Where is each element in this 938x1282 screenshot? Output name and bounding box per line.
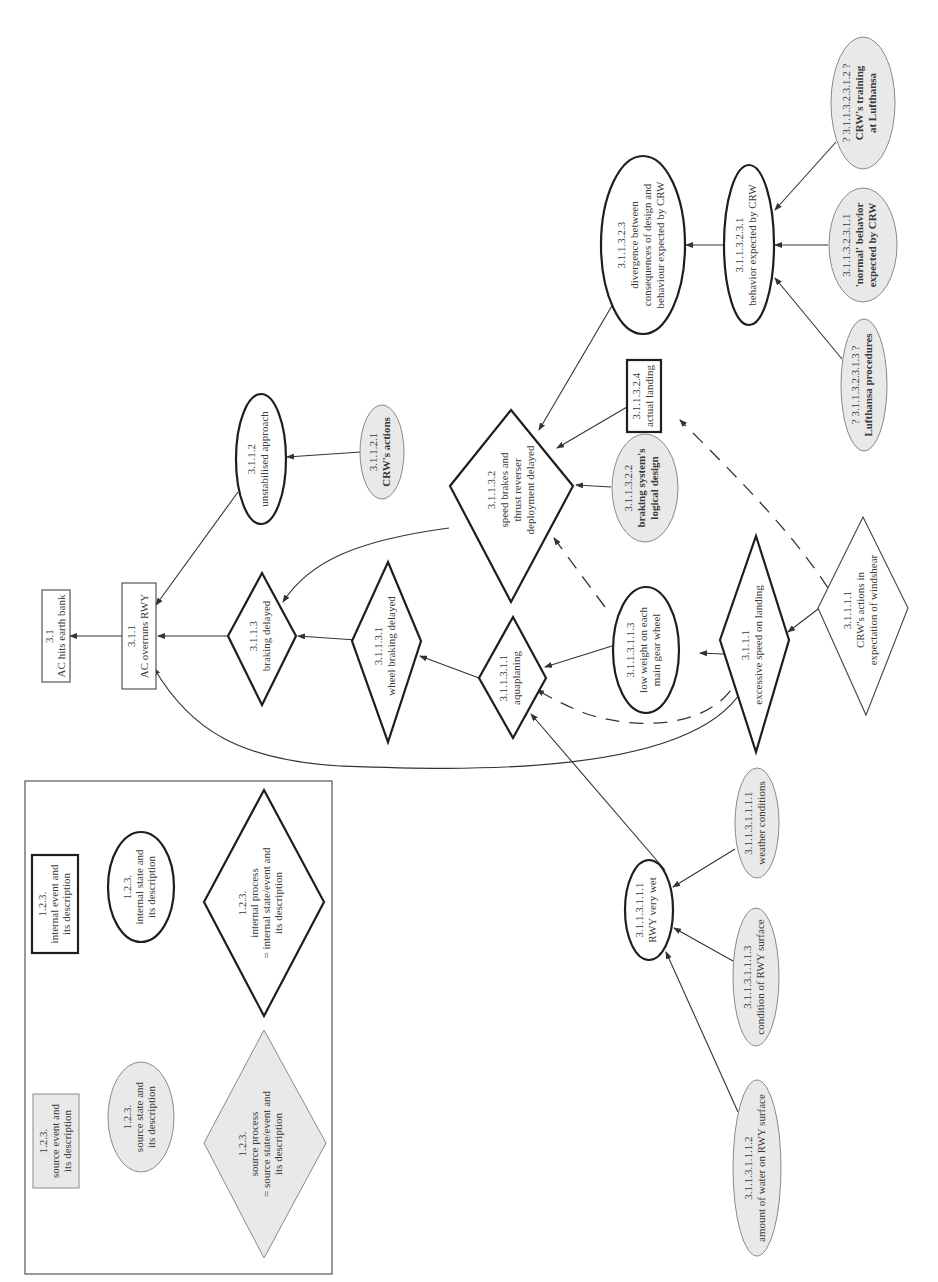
legend-label-line: internal event and xyxy=(48,864,60,943)
legend-label-line: its description xyxy=(272,871,284,934)
legend-label-line: its description xyxy=(272,1112,284,1175)
node-id: 3.1.1.3.2.3.1 xyxy=(733,218,745,273)
node-3-1-1-3-2-3-1[interactable]: 3.1.1.3.2.3.1 behavior expected by CRW xyxy=(724,165,774,325)
node-id: 3.1.1.3.2 xyxy=(485,471,497,510)
node-3-1-1-3-2-2[interactable]: 3.1.1.3.2.2 braking system's logical des… xyxy=(612,434,678,542)
node-label: aquaplaning xyxy=(510,651,522,705)
node-id: 3.1.1 xyxy=(125,625,137,647)
legend-source-event: 1.2.3. source event and its description xyxy=(33,1094,79,1188)
legend-label-line: its description xyxy=(145,855,157,918)
node-label: unstabilised approach xyxy=(258,411,270,507)
legend-label-line: source state and xyxy=(133,1081,145,1152)
legend-label-id: 1.2.3. xyxy=(121,1104,133,1129)
legend-label-id: 1.2.3. xyxy=(121,874,133,899)
node-label: braking system's xyxy=(635,448,647,528)
legend-label-line: internal process xyxy=(248,868,260,937)
node-label: main gear wheel xyxy=(650,614,662,687)
node-3-1[interactable]: 3.1 AC hits earth bank xyxy=(42,590,70,682)
node-label: braking delayed xyxy=(260,600,272,671)
node-label: RWY very wet xyxy=(646,877,658,943)
legend-label-line: = source state/event and xyxy=(260,1090,272,1197)
node-3-1-1-3-2-3-1-2[interactable]: ? 3.1.1.3.2.3.1.2 ? CRW's training at Lu… xyxy=(831,37,895,169)
node-label: weather conditions xyxy=(755,781,767,864)
node-id: 3.1.1.3 xyxy=(247,620,259,651)
node-id: 3.1.1.2.1 xyxy=(367,433,379,472)
node-3-1-1-1[interactable]: 3.1.1.1 excessive speed on landing xyxy=(720,536,789,752)
edge xyxy=(666,952,738,1112)
node-id: 3.1.1.3.2.2 xyxy=(622,465,634,512)
node-3-1-1-3-1-1-1-2[interactable]: 3.1.1.3.1.1.1.2 amount of water on RWY s… xyxy=(733,1080,781,1256)
node-3-1-1-3-1[interactable]: 3.1.1.3.1 wheel braking delayed xyxy=(352,562,421,742)
node-id: 3.1.1.1 xyxy=(739,630,751,660)
node-id: 3.1.1.3.1.1.3 xyxy=(624,622,636,678)
edge xyxy=(775,142,836,210)
node-label: behaviour expected by CRW xyxy=(654,181,666,308)
node-3-1-1-2-1[interactable]: 3.1.1.2.1 CRW's actions xyxy=(360,405,404,499)
node-id: 3.1.1.3.1.1 xyxy=(497,655,509,702)
legend: 1.2.3. internal event and its descriptio… xyxy=(25,781,332,1274)
node-3-1-1-3-2-3-1-3[interactable]: ? 3.1.1.3.2.3.1.3 ? Lufthansa procedures xyxy=(841,319,887,451)
legend-source-state: 1.2.3. source state and its description xyxy=(108,1062,174,1172)
node-3-1-1-3-1-1-3[interactable]: 3.1.1.3.1.1.3 low weight on each main ge… xyxy=(613,587,679,713)
edge-dashed xyxy=(554,538,605,607)
edge xyxy=(156,492,238,605)
node-id: 3.1.1.1.1 xyxy=(841,591,853,630)
legend-label-id: 1.2.3. xyxy=(36,891,48,916)
edge xyxy=(420,656,479,678)
node-id: 3.1.1.3.1.1.1 xyxy=(633,883,645,938)
legend-label-line: its description xyxy=(145,1085,157,1148)
causal-diagram: 1.2.3. internal event and its descriptio… xyxy=(0,0,938,1282)
legend-label-id: 1.2.3. xyxy=(37,1128,49,1153)
node-3-1-1-3-2-3[interactable]: 3.1.1.3.2.3 divergence between consequen… xyxy=(601,156,685,334)
node-label: consequences of design and xyxy=(641,183,653,306)
node-label: expected by CRW xyxy=(866,203,878,288)
node-label: speed brakes and xyxy=(498,452,510,528)
node-label: deployment delayed xyxy=(524,445,536,534)
legend-internal-state: 1.2.3. internal state and its descriptio… xyxy=(108,832,174,942)
edge xyxy=(673,849,735,887)
edge xyxy=(539,304,613,430)
node-label: 'normal' behavior xyxy=(853,203,865,288)
legend-label-line: its description xyxy=(60,872,72,935)
node-label: behavior expected by CRW xyxy=(746,184,758,306)
edge xyxy=(287,452,361,457)
node-3-1-1-3-2[interactable]: 3.1.1.3.2 speed brakes and thrust revers… xyxy=(450,410,573,602)
node-3-1-1-1-1[interactable]: 3.1.1.1.1 CRW's actions in expectation o… xyxy=(818,517,908,715)
node-label: expectation of windshear xyxy=(867,554,879,665)
node-id: 3.1.1.3.1.1.1.3 xyxy=(741,945,753,1009)
edge xyxy=(531,714,665,870)
legend-label-line: internal state and xyxy=(133,849,145,925)
legend-label-line: source event and xyxy=(49,1104,61,1178)
edge xyxy=(775,278,842,359)
legend-label-id: 1.2.3. xyxy=(236,1131,248,1156)
node-label: CRW's actions in xyxy=(854,572,866,648)
node-3-1-1-3-2-4[interactable]: 3.1.1.3.2.4 actual landing xyxy=(627,360,661,432)
node-label: excessive speed on landing xyxy=(752,585,764,705)
node-3-1-1-3[interactable]: 3.1.1.3 braking delayed xyxy=(228,573,296,705)
node-label: CRW's training xyxy=(853,65,865,140)
node-id: ? 3.1.1.3.2.3.1.2 ? xyxy=(840,64,852,143)
node-3-1-1-3-1-1-1-3[interactable]: 3.1.1.3.1.1.1.3 condition of RWY surface xyxy=(733,908,779,1046)
legend-internal-event: 1.2.3. internal event and its descriptio… xyxy=(32,855,78,953)
node-id: 3.1.1.2 xyxy=(245,444,257,474)
node-3-1-1-3-2-3-1-1[interactable]: 3.1.1.3.2.3.1.1 'normal' behavior expect… xyxy=(829,188,897,302)
legend-label-line: its description xyxy=(61,1109,73,1172)
node-id: 3.1.1.3.2.3.1.1 xyxy=(840,213,852,276)
edge xyxy=(674,928,733,961)
node-label: condition of RWY surface xyxy=(754,919,766,1034)
node-label: wheel braking delayed xyxy=(385,596,397,696)
node-3-1-1-3-1-1-1[interactable]: 3.1.1.3.1.1.1 RWY very wet xyxy=(625,860,673,960)
node-label: AC overruns RWY xyxy=(138,594,150,678)
node-label: AC hits earth bank xyxy=(55,594,67,677)
edge xyxy=(283,528,449,602)
legend-label-id: 1.2.3. xyxy=(236,890,248,915)
legend-label-line: = internal state/event and xyxy=(260,847,272,958)
node-3-1-1-3-1-1-1-1[interactable]: 3.1.1.3.1.1.1.1 weather conditions xyxy=(735,768,779,878)
edge xyxy=(576,485,611,487)
node-3-1-1[interactable]: 3.1.1 AC overruns RWY xyxy=(122,583,156,689)
node-id: 3.1 xyxy=(43,629,55,643)
node-id: 3.1.1.3.2.3 xyxy=(615,221,627,268)
node-label: actual landing xyxy=(643,365,655,428)
node-label: Lufthansa procedures xyxy=(862,333,874,437)
node-3-1-1-2[interactable]: 3.1.1.2 unstabilised approach xyxy=(236,394,286,524)
